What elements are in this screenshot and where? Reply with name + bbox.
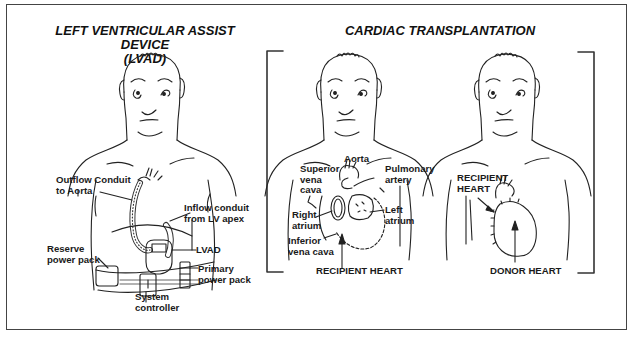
label-inflow-conduit: Inflow conduit from LV apex	[184, 203, 249, 224]
label-recipient-heart: RECIPIENT HEART	[457, 173, 508, 194]
bracket-right	[578, 52, 594, 273]
label-left-atrium: Left atrium	[385, 205, 414, 226]
label-superior-vena-cava: Superior vena cava	[300, 164, 339, 196]
label-inferior-vena-cava: Inferior vena cava	[288, 236, 334, 257]
label-primary-power-pack: Primary power pack	[198, 264, 251, 285]
label-outflow-conduit: Outflow Conduit to Aorta	[56, 175, 131, 196]
donor-figure	[423, 53, 591, 260]
label-reserve-power-pack: Reserve power pack	[47, 244, 100, 265]
label-right-atrium: Right atrium	[292, 210, 321, 231]
label-lvad: LVAD	[196, 245, 221, 256]
label-system-controller: System controller	[135, 292, 179, 313]
label-aorta: Aorta	[344, 154, 369, 165]
caption-recipient-heart: RECIPIENT HEART	[316, 265, 403, 276]
label-pulmonary-artery: Pulmonary artery	[385, 164, 435, 185]
caption-donor-heart: DONOR HEART	[490, 265, 561, 276]
